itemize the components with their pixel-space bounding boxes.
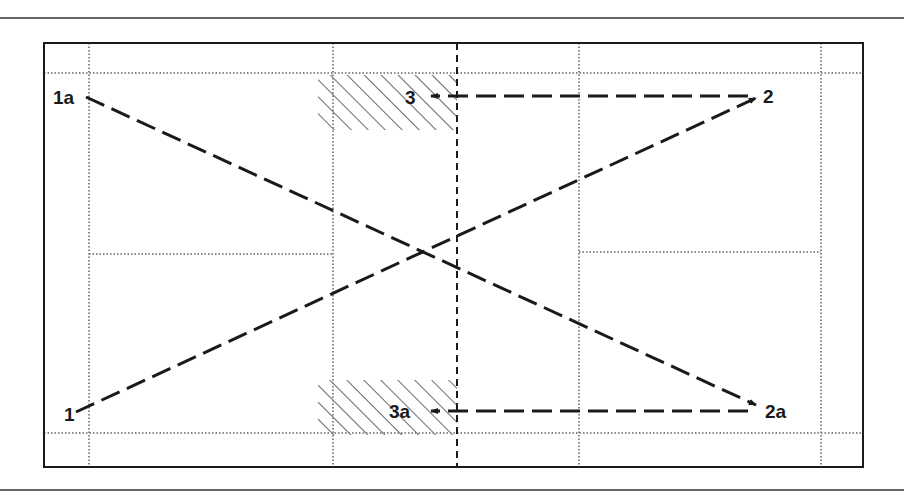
label-2: 2 bbox=[763, 86, 774, 107]
hatched-zone-top bbox=[318, 75, 457, 130]
label-1a: 1a bbox=[53, 87, 75, 108]
court-diagram: 1a 1 2 2a 3 3a bbox=[0, 0, 904, 498]
label-2a: 2a bbox=[765, 401, 787, 422]
label-1: 1 bbox=[64, 404, 75, 425]
hatched-zone-bottom bbox=[318, 380, 457, 435]
label-3: 3 bbox=[405, 87, 416, 108]
path-1a-to-2a bbox=[86, 97, 756, 405]
label-3a: 3a bbox=[389, 401, 411, 422]
